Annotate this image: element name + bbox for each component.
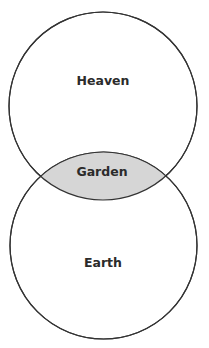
label-earth: Earth	[84, 255, 122, 270]
label-garden: Garden	[76, 164, 127, 179]
venn-diagram: Heaven Garden Earth	[0, 0, 209, 348]
label-heaven: Heaven	[77, 73, 130, 88]
